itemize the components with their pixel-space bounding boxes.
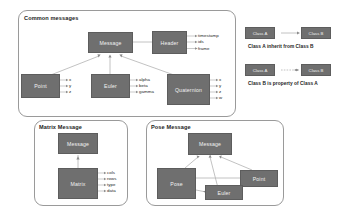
attr-matrix-cols: cols <box>107 170 115 175</box>
legend-2-caption: Class B is property of Class A <box>248 81 318 86</box>
legend-2-class-b-label: Class B <box>309 68 324 73</box>
attr-point-z: z <box>69 89 71 94</box>
node-pose-point-label: Point <box>253 176 266 182</box>
attr-point-y: y <box>69 83 71 88</box>
node-common-header[interactable]: Header <box>152 31 187 54</box>
diagram-canvas: Common messages Message Header timestamp… <box>0 0 338 214</box>
attr-quaternion-w: w <box>219 95 222 100</box>
legend-1-class-a: Class A <box>245 27 275 39</box>
legend-2-class-a-label: Class A <box>253 68 268 73</box>
node-pose-point[interactable]: Point <box>240 170 278 187</box>
attr-quaternion-x: x <box>219 77 221 82</box>
panel-pose-message-title: Pose Message <box>151 124 191 130</box>
node-common-quaternion-label: Quaternion <box>175 87 202 93</box>
node-common-message[interactable]: Message <box>88 32 133 53</box>
node-pose[interactable]: Pose <box>157 168 196 199</box>
attr-matrix-data: data <box>107 188 116 193</box>
attr-euler-gamma: gamma <box>139 89 154 94</box>
panel-matrix-message-title: Matrix Message <box>39 124 82 130</box>
node-pose-euler-label: Euler <box>218 190 231 196</box>
legend-1-caption: Class A inherit from Class B <box>248 44 314 49</box>
legend-2-class-a: Class A <box>245 64 275 76</box>
node-pose-message-label: Message <box>199 141 221 147</box>
panel-common-messages-title: Common messages <box>24 15 78 21</box>
attr-header-ids: ids <box>198 39 204 44</box>
legend-1-class-b: Class B <box>301 27 331 39</box>
node-pose-message[interactable]: Message <box>188 133 232 155</box>
node-matrix-message[interactable]: Message <box>58 133 98 154</box>
node-pose-euler[interactable]: Euler <box>205 185 243 200</box>
legend-1-class-b-label: Class B <box>309 31 324 36</box>
node-common-header-label: Header <box>161 40 179 46</box>
node-common-quaternion[interactable]: Quaternion <box>167 74 210 105</box>
attr-header-timestamp: timestamp <box>198 33 219 38</box>
node-common-point[interactable]: Point <box>21 74 60 98</box>
node-pose-label: Pose <box>170 181 182 187</box>
legend-2-class-b: Class B <box>301 64 331 76</box>
node-matrix[interactable]: Matrix <box>58 168 98 199</box>
attr-quaternion-z: z <box>219 89 221 94</box>
node-matrix-label: Matrix <box>70 181 85 187</box>
attr-point-x: x <box>69 77 71 82</box>
legend-1-class-a-label: Class A <box>253 31 268 36</box>
attr-euler-beta: beta <box>139 83 148 88</box>
node-matrix-message-label: Message <box>67 141 89 147</box>
node-common-euler[interactable]: Euler <box>91 74 130 98</box>
attr-euler-alpha: alpha <box>139 77 150 82</box>
attr-quaternion-y: y <box>219 83 221 88</box>
node-common-message-label: Message <box>99 40 121 46</box>
attr-matrix-rows: rows <box>107 176 116 181</box>
node-common-point-label: Point <box>34 83 47 89</box>
attr-matrix-type: type <box>107 182 116 187</box>
attr-header-frame: frame <box>198 46 209 51</box>
node-common-euler-label: Euler <box>104 83 117 89</box>
